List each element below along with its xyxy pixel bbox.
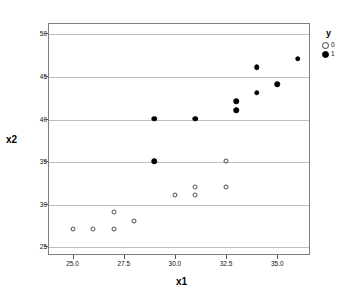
y-axis-title: x2 (6, 134, 17, 145)
data-point (254, 90, 260, 96)
scatter-plot-figure: 25303540455025.027.530.032.535.0 x2 x1 y… (0, 0, 363, 306)
legend-entries: 01 (322, 42, 362, 58)
data-point (131, 218, 136, 223)
data-point (152, 158, 158, 164)
x-axis-tick-label: 30.0 (169, 260, 182, 267)
x-axis-title: x1 (0, 276, 363, 287)
x-axis-tick-label: 32.5 (220, 260, 233, 267)
data-point (224, 159, 229, 164)
x-axis-tick-label: 35.0 (271, 260, 284, 267)
legend-item[interactable]: 1 (322, 51, 362, 58)
plot-area (48, 23, 310, 255)
x-axis-tick-mark (226, 255, 227, 259)
legend-item[interactable]: 0 (322, 42, 362, 49)
data-point (234, 107, 240, 113)
gridline-horizontal (49, 205, 309, 206)
data-point (193, 184, 198, 189)
legend-title: y (326, 28, 362, 38)
y-axis-tick-mark (44, 119, 48, 120)
x-axis-tick-label: 27.5 (117, 260, 130, 267)
y-axis-tick-mark (44, 33, 48, 34)
data-point (234, 99, 240, 105)
data-point (111, 227, 116, 232)
y-axis-tick-mark (44, 76, 48, 77)
data-point (295, 56, 301, 62)
data-point (152, 116, 158, 122)
legend-item-label: 0 (331, 42, 335, 49)
y-axis-tick-mark (44, 246, 48, 247)
gridline-horizontal (49, 162, 309, 163)
x-axis-tick-mark (277, 255, 278, 259)
data-point (193, 193, 198, 198)
x-axis-tick-mark (175, 255, 176, 259)
legend: y 01 (322, 28, 362, 60)
data-point (224, 184, 229, 189)
x-axis-tick-mark (73, 255, 74, 259)
data-point (70, 227, 75, 232)
data-point (193, 116, 199, 122)
open-circle-icon (322, 42, 329, 49)
x-axis-tick-mark (124, 255, 125, 259)
gridline-horizontal (49, 77, 309, 78)
gridline-horizontal (49, 34, 309, 35)
data-point (172, 193, 177, 198)
filled-circle-icon (322, 51, 329, 58)
y-axis-tick-mark (44, 204, 48, 205)
legend-item-label: 1 (331, 51, 335, 58)
data-point (111, 210, 116, 215)
data-point (254, 65, 260, 71)
x-axis-tick-label: 25.0 (66, 260, 79, 267)
gridline-horizontal (49, 247, 309, 248)
data-point (91, 227, 96, 232)
gridline-horizontal (49, 120, 309, 121)
y-axis-tick-mark (44, 161, 48, 162)
data-point (275, 82, 281, 88)
